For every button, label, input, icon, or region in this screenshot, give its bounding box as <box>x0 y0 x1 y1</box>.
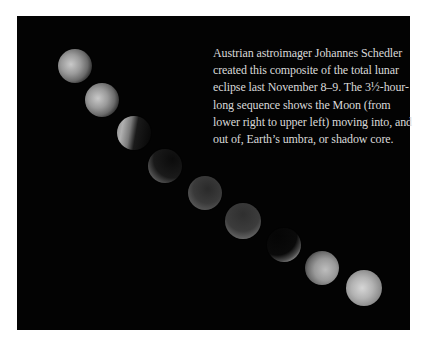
moon-phase-1 <box>58 49 92 83</box>
caption-line: lower right to upper left) moving into, … <box>213 114 399 131</box>
moon-phase-3 <box>117 116 151 150</box>
moon-phase-8 <box>305 251 339 285</box>
caption-line: long sequence shows the Moon (from <box>213 97 399 114</box>
photo-caption: Austrian astroimager Johannes Schedler c… <box>213 45 399 148</box>
moon-phase-5 <box>188 176 222 210</box>
caption-line: out of, Earth’s umbra, or shadow core. <box>213 131 399 148</box>
moon-phase-4 <box>148 149 182 183</box>
caption-line: Austrian astroimager Johannes Schedler <box>213 45 399 62</box>
moon-phase-7 <box>267 228 301 262</box>
caption-line: eclipse last November 8–9. The 3½-hour- <box>213 79 399 96</box>
moon-phase-9 <box>346 270 382 306</box>
moon-phase-2 <box>85 83 119 117</box>
caption-line: created this composite of the total luna… <box>213 62 399 79</box>
moon-phase-6 <box>225 203 261 239</box>
